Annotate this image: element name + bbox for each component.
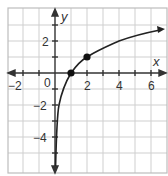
y-axis-label: y xyxy=(60,9,69,24)
point-1-0 xyxy=(67,69,74,76)
x-tick-label-4: 4 xyxy=(116,79,123,93)
y-axis xyxy=(52,9,58,173)
x-axis-left-arrow-icon xyxy=(8,70,15,76)
x-tick-label-6: 6 xyxy=(148,79,155,93)
log-graph: y x 0 −2 2 4 6 2 −2 −4 xyxy=(0,0,168,176)
x-tick-label-neg2: −2 xyxy=(8,79,22,93)
point-2-1 xyxy=(83,53,90,60)
y-tick-label-neg4: −4 xyxy=(33,131,47,145)
x-axis-label: x xyxy=(152,54,160,69)
x-tick-label-2: 2 xyxy=(84,79,91,93)
y-tick-label-neg2: −2 xyxy=(33,99,47,113)
y-tick-label-2: 2 xyxy=(42,35,49,49)
x-axis xyxy=(8,70,166,76)
y-axis-down-arrow-icon xyxy=(52,166,58,173)
y-axis-up-arrow-icon xyxy=(52,9,58,16)
x-axis-right-arrow-icon xyxy=(159,70,166,76)
origin-label: 0 xyxy=(44,76,51,90)
curve-arrow-icon xyxy=(157,26,165,33)
